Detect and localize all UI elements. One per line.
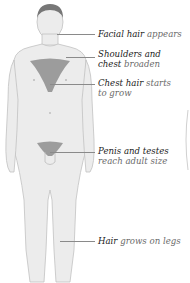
leader-line-shoulders xyxy=(66,57,95,58)
leader-line-genitals xyxy=(50,152,95,153)
label-penis-testes: Penis and testes reach adult size xyxy=(98,146,169,166)
leader-line-chest-hair xyxy=(50,84,95,85)
label-leg-hair: Hair grows on legs xyxy=(98,236,181,246)
label-shoulders-chest: Shoulders and chest broaden xyxy=(98,49,161,69)
label-chest-hair: Chest hair starts to grow xyxy=(98,78,171,98)
label-facial-hair: Facial hair appears xyxy=(98,29,182,39)
leader-line-facial xyxy=(57,34,95,35)
leader-line-legs xyxy=(60,241,95,242)
